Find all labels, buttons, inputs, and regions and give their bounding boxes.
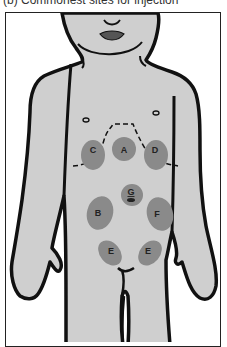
- site-G: G: [121, 184, 143, 206]
- svg-text:F: F: [154, 209, 160, 219]
- svg-text:D: D: [152, 145, 159, 155]
- body-outline: [11, 13, 216, 342]
- site-C: C: [81, 140, 105, 170]
- svg-text:B: B: [95, 208, 102, 218]
- site-D: D: [144, 140, 168, 170]
- svg-text:C: C: [90, 145, 97, 155]
- svg-text:G: G: [127, 187, 134, 197]
- svg-text:E: E: [145, 246, 151, 256]
- inner-leg-right: [122, 296, 124, 342]
- site-A: A: [112, 137, 136, 161]
- svg-text:A: A: [121, 145, 128, 155]
- umbilicus: [127, 198, 135, 202]
- svg-text:E: E: [108, 246, 114, 256]
